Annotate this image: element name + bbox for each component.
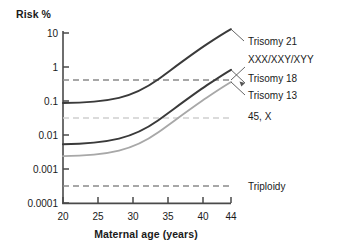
series-curve-trisomy-18 xyxy=(63,70,231,144)
x-tick-label-35: 35 xyxy=(162,211,174,222)
x-axis-title: Maternal age (years) xyxy=(94,228,198,240)
series-curve-trisomy-13 xyxy=(63,82,231,156)
x-tick-label-30: 30 xyxy=(127,211,139,222)
y-tick-label-10: 10 xyxy=(47,28,59,39)
y-tick-label-1: 1 xyxy=(52,62,58,73)
series-label-trisomy-21: Trisomy 21 xyxy=(248,36,298,47)
chart-canvas: Risk % Maternal age (years) 10 1 0.1 0.0… xyxy=(0,0,338,242)
x-axis-ticks xyxy=(63,197,231,203)
x-tick-label-44: 44 xyxy=(225,211,237,222)
leader-line-trisomy-18 xyxy=(231,70,245,83)
series-label-triploidy: Triploidy xyxy=(248,181,285,192)
series-label-45x: 45, X xyxy=(248,111,272,122)
y-axis-tick-labels: 10 1 0.1 0.01 0.001 0.0001 xyxy=(27,28,58,209)
series-label-trisomy-18: Trisomy 18 xyxy=(248,73,298,84)
y-tick-label-0.1: 0.1 xyxy=(44,96,58,107)
risk-vs-maternal-age-chart: Risk % Maternal age (years) 10 1 0.1 0.0… xyxy=(0,0,338,242)
leader-line-xxx-xxy-xyy xyxy=(231,67,245,80)
x-tick-label-20: 20 xyxy=(57,211,69,222)
y-tick-label-0.0001: 0.0001 xyxy=(27,198,58,209)
series-label-xxx-xxy-xyy: XXX/XXY/XYY xyxy=(248,54,314,65)
leader-line-trisomy-21 xyxy=(231,29,244,41)
series-curve-trisomy-21 xyxy=(63,29,231,103)
leader-lines xyxy=(231,29,245,95)
x-tick-label-40: 40 xyxy=(197,211,209,222)
y-tick-label-0.001: 0.001 xyxy=(33,164,58,175)
series-label-trisomy-13: Trisomy 13 xyxy=(248,90,298,101)
series-labels: Trisomy 21 XXX/XXY/XYY Trisomy 18 Trisom… xyxy=(248,36,314,192)
x-axis-tick-labels: 20 25 30 35 40 44 xyxy=(57,211,237,222)
y-tick-label-0.01: 0.01 xyxy=(39,130,59,141)
y-axis-title: Risk % xyxy=(16,8,52,20)
x-tick-label-25: 25 xyxy=(92,211,104,222)
